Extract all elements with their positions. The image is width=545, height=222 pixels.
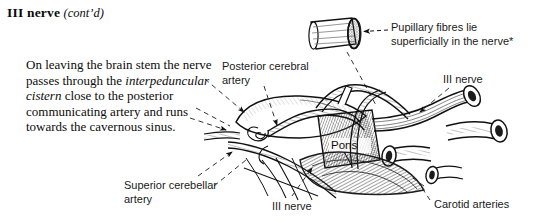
label-leader-lines bbox=[190, 79, 449, 200]
figure-heading: III nerve (cont’d) bbox=[7, 5, 104, 21]
label-third-nerve-right: III nerve bbox=[443, 73, 483, 87]
figure-panel: III nerve (cont’d) On leaving the brain … bbox=[0, 0, 545, 222]
heading-continued: (cont’d) bbox=[64, 6, 104, 20]
label-posterior-cerebral-artery: Posterior cerebral artery bbox=[222, 60, 309, 87]
heading-title: III nerve bbox=[7, 5, 60, 20]
label-pons: Pons bbox=[331, 139, 357, 153]
label-superior-cerebellar-artery: Superior cerebellar artery bbox=[124, 179, 217, 206]
label-third-nerve-bottom: III nerve bbox=[272, 200, 312, 214]
leader-cylinder-to-nerve bbox=[347, 52, 377, 107]
leader-pupillary-fibres bbox=[364, 30, 388, 32]
nerve-cylinder-diagram bbox=[309, 18, 362, 49]
body-paragraph: On leaving the brain stem the nerve pass… bbox=[26, 57, 222, 135]
label-pupillary-fibres: Pupillary fibres lie superficially in th… bbox=[391, 21, 513, 48]
label-carotid-arteries: Carotid arteries bbox=[434, 198, 509, 212]
